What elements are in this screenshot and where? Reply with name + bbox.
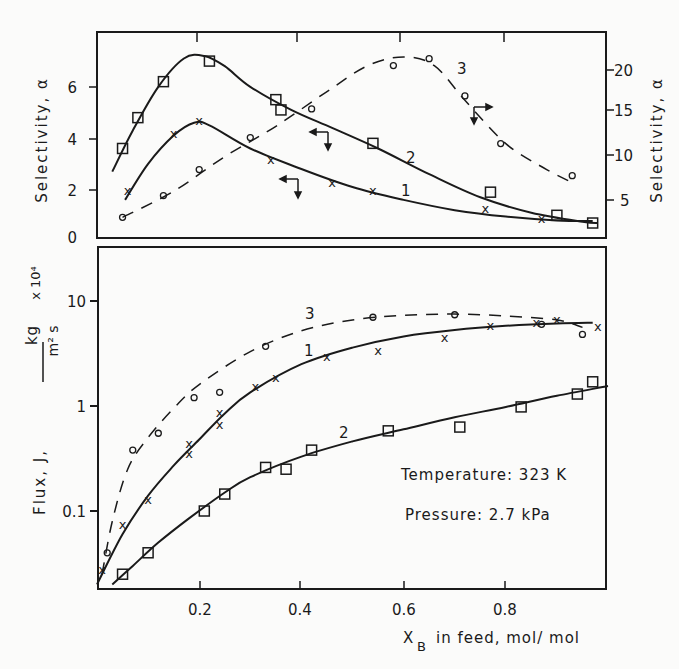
- svg-text:X: X: [403, 629, 414, 647]
- x-marker: x: [185, 436, 193, 451]
- x-marker: x: [216, 405, 224, 420]
- x-marker: x: [482, 201, 490, 216]
- circle-marker: [247, 135, 253, 141]
- square-marker: [588, 377, 598, 387]
- x-marker: x: [594, 319, 602, 334]
- pressure-annotation: Pressure: 2.7 kPa: [405, 506, 551, 524]
- top-right-ytick-5: 5: [620, 192, 630, 210]
- x-marker: x: [144, 492, 152, 507]
- circle-marker: [390, 63, 396, 69]
- svg-text:Flux, J,: Flux, J,: [31, 449, 49, 515]
- circle-marker: [462, 93, 468, 99]
- bottom-ytick-1: 1: [76, 398, 86, 416]
- circle-marker: [569, 173, 575, 179]
- series-2-fit-line: [112, 386, 608, 584]
- x-marker: x: [124, 183, 132, 198]
- top-right-ylabel: Selectivity, α: [648, 77, 666, 203]
- x-marker: x: [328, 175, 336, 190]
- top-right-ytick-20: 20: [614, 62, 633, 80]
- bottom-curve-label-3: 3: [305, 305, 315, 323]
- top-right-ytick-10: 10: [614, 147, 633, 165]
- top-left-ytick-6: 6: [67, 79, 77, 97]
- svg-text:B: B: [417, 639, 426, 654]
- axis-indicator-arrows: [280, 104, 492, 198]
- circle-marker: [498, 141, 504, 147]
- circle-marker: [104, 550, 110, 556]
- svg-text:m² s: m² s: [45, 326, 61, 357]
- top-curve-label-3: 3: [457, 60, 467, 78]
- x-marker: x: [487, 318, 495, 333]
- circle-marker: [426, 56, 432, 62]
- bottom-ytick-10: 10: [67, 293, 86, 311]
- series-2-fit-line: [112, 55, 598, 223]
- x-marker: x: [323, 349, 331, 364]
- top-left-ytick-0: 0: [67, 229, 77, 247]
- bottom-ytick-0.1: 0.1: [62, 503, 86, 521]
- square-marker: [485, 187, 495, 197]
- bottom-panel-frame: [98, 247, 606, 589]
- square-marker: [281, 464, 291, 474]
- bottom-xlabel: X B in feed, mol/ mol: [403, 629, 580, 654]
- x-marker: x: [119, 517, 127, 532]
- x-marker: x: [170, 126, 178, 141]
- series-3-fit-line: [123, 57, 573, 217]
- circle-marker: [191, 395, 197, 401]
- square-marker: [455, 422, 465, 432]
- circle-marker: [309, 106, 315, 112]
- x-marker: x: [272, 370, 280, 385]
- circle-marker: [196, 167, 202, 173]
- figure: 6 4 2 0 20 15 10 5 Selectivity, α Select…: [0, 0, 679, 669]
- circle-marker: [130, 447, 136, 453]
- bottom-panel: 10 1 0.1 0.2 0.4 0.6 0.8 X B in feed, mo…: [23, 247, 608, 654]
- x-marker: x: [195, 113, 203, 128]
- x-marker: x: [538, 211, 546, 226]
- top-curve-label-1: 1: [401, 182, 411, 200]
- circle-marker: [579, 331, 585, 337]
- bottom-xtick-0.4: 0.4: [288, 601, 312, 619]
- top-left-ytick-2: 2: [67, 182, 77, 200]
- x-marker: x: [267, 152, 275, 167]
- x-marker: x: [369, 183, 377, 198]
- bottom-ylabel: Flux, J, kg m² s x 10⁴: [23, 266, 61, 515]
- circle-marker: [155, 430, 161, 436]
- top-left-ylabel: Selectivity, α: [33, 77, 51, 203]
- top-curves: xxxxxxxx: [112, 55, 598, 228]
- top-panel: 6 4 2 0 20 15 10 5 Selectivity, α Select…: [33, 32, 666, 247]
- svg-text:x 10⁴: x 10⁴: [28, 266, 43, 300]
- svg-text:in feed, mol/ mol: in feed, mol/ mol: [436, 629, 580, 647]
- x-marker: x: [252, 379, 260, 394]
- bottom-curve-label-2: 2: [339, 424, 349, 442]
- bottom-curve-label-1: 1: [304, 342, 314, 360]
- bottom-xtick-0.8: 0.8: [493, 601, 517, 619]
- svg-text:kg: kg: [23, 325, 41, 345]
- bottom-xtick-0.2: 0.2: [188, 601, 212, 619]
- x-marker: x: [374, 343, 382, 358]
- circle-marker: [217, 389, 223, 395]
- x-marker: x: [441, 330, 449, 345]
- top-curve-label-2: 2: [406, 149, 416, 167]
- top-left-ytick-4: 4: [67, 131, 77, 149]
- series-1-fit-line: [97, 323, 593, 585]
- top-right-ytick-15: 15: [614, 102, 633, 120]
- bottom-curves: xxxxxxxxxxxxxxxx: [97, 312, 608, 585]
- series-1-fit-line: [125, 122, 593, 221]
- bottom-xtick-0.6: 0.6: [392, 601, 416, 619]
- temperature-annotation: Temperature: 323 K: [400, 466, 567, 484]
